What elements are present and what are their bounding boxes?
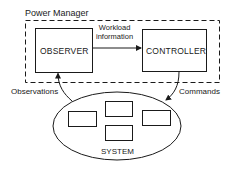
system-label: SYSTEM bbox=[101, 148, 134, 156]
observer-label: OBSERVER bbox=[40, 47, 89, 56]
commands-label: Commands bbox=[179, 88, 220, 96]
workload-label-line2: information bbox=[96, 33, 133, 42]
workload-information-label: Workload information bbox=[96, 24, 133, 41]
controller-label: CONTROLLER bbox=[146, 47, 206, 56]
power-manager-label: Power Manager bbox=[25, 9, 89, 18]
observations-arrow bbox=[58, 74, 72, 102]
observations-label: Observations bbox=[11, 88, 58, 96]
commands-arrow bbox=[166, 72, 179, 100]
